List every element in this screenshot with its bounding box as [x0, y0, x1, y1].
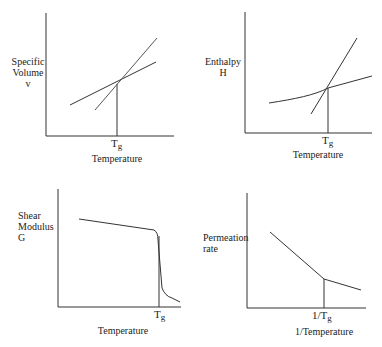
ylabel-line: Permeation	[203, 232, 249, 243]
tg-tick-label: Tg	[322, 134, 333, 148]
panel-enthalpy	[245, 12, 372, 133]
ylabel-specific-volume: Specific Volume v	[4, 56, 52, 89]
panel-permeation	[247, 193, 366, 308]
xlabel-temperature: Temperature	[283, 149, 353, 160]
ylabel-line: Enthalpy	[200, 56, 246, 67]
ylabel-line: Volume	[4, 67, 52, 78]
tg-tick-label: Tg	[111, 137, 122, 151]
panel-shear-modulus	[58, 189, 181, 307]
axes	[247, 193, 366, 308]
ylabel-permeation-rate: Permeation rate	[203, 232, 249, 254]
axes	[245, 12, 372, 133]
inverse-tg-tick-label: 1/Tg	[312, 309, 332, 323]
ylabel-shear-modulus: Shear Modulus G	[18, 210, 54, 243]
ylabel-enthalpy: Enthalpy H	[200, 56, 246, 78]
xlabel-temperature: Temperature	[88, 325, 158, 336]
glassy-line	[70, 62, 156, 105]
ylabel-line: rate	[203, 243, 249, 254]
ylabel-line: H	[200, 67, 246, 78]
tg-tick-label: Tg	[154, 308, 165, 322]
ylabel-line: Shear	[18, 210, 54, 221]
ylabel-line: Specific	[4, 56, 52, 67]
ylabel-line: G	[18, 232, 54, 243]
ylabel-line: Modulus	[18, 221, 54, 232]
xlabel-temperature: Temperature	[82, 153, 152, 164]
permeation-line	[270, 232, 361, 290]
figure-canvas	[0, 0, 382, 347]
panel-specific-volume	[46, 13, 174, 136]
y-axis	[46, 13, 174, 136]
ylabel-line: v	[4, 78, 52, 89]
rubbery-line	[311, 38, 357, 114]
modulus-curve	[79, 219, 180, 302]
rubbery-line	[95, 38, 157, 110]
xlabel-inverse-temperature: 1/Temperature	[281, 326, 367, 337]
